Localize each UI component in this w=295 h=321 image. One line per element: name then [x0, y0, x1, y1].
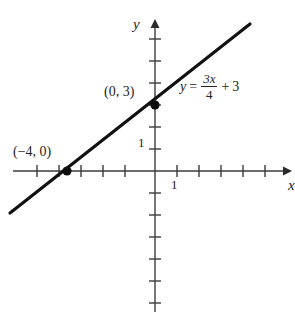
equation-equals: =: [189, 80, 197, 94]
y-axis-label: y: [133, 17, 140, 32]
equation-numerator: 3x: [201, 72, 217, 86]
y-axis-tick-label-1: 1: [138, 136, 145, 149]
x-axis-label: x: [288, 178, 295, 193]
linear-graph-figure: y x 1 1 (0, 3) (−4, 0) y = 3x 4 + 3: [0, 0, 295, 321]
equation-plus: +: [221, 80, 229, 94]
point-marker-y-intercept: [150, 100, 159, 109]
point-label-x-intercept: (−4, 0): [13, 145, 51, 159]
y-axis-arrow-icon: [151, 19, 160, 28]
equation-lhs: y: [180, 80, 186, 94]
coordinate-plane: [0, 0, 295, 321]
equation-constant: 3: [232, 80, 239, 94]
equation-annotation: y = 3x 4 + 3: [180, 72, 239, 101]
x-axis-tick-label-1: 1: [171, 178, 178, 191]
point-label-y-intercept: (0, 3): [104, 85, 134, 99]
y-axis-group: [149, 19, 161, 312]
point-marker-x-intercept: [62, 166, 71, 175]
x-axis-group: [13, 165, 292, 177]
equation-denominator: 4: [204, 87, 215, 101]
equation-fraction: 3x 4: [201, 72, 217, 101]
x-axis-arrow-icon: [283, 167, 292, 176]
line-graph-series: [10, 24, 250, 213]
